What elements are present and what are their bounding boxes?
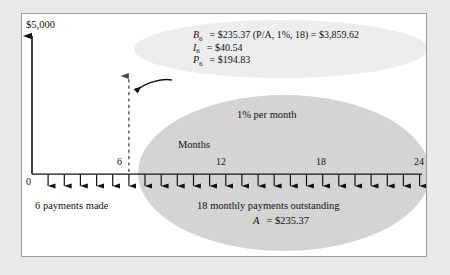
payment-amount-expression: = $235.37: [266, 215, 309, 226]
payments-outstanding-label: 18 monthly payments outstanding: [197, 201, 340, 212]
figure-root: $5,000 0 6 12 18 24 B6= $235.37 (P/A, 1%…: [0, 0, 450, 275]
formula-line-balance: B6= $235.37 (P/A, 1%, 18) = $3,859.62: [193, 29, 359, 42]
months-axis-caption: Months: [178, 140, 210, 151]
tick-label-24: 24: [414, 157, 424, 167]
tick-label-12: 12: [216, 157, 226, 167]
payment-amount-label: A= $235.37: [253, 216, 309, 227]
formula-subscript-B: 6: [199, 35, 203, 43]
formula-expression-B: = $235.37 (P/A, 1%, 18) = $3,859.62: [210, 29, 359, 40]
tick-label-18: 18: [316, 157, 326, 167]
present-value-label: $5,000: [26, 20, 55, 31]
formula-subscript-I: 6: [196, 47, 200, 55]
payments-made-label: 6 payments made: [35, 201, 108, 212]
tick-label-0: 0: [26, 177, 31, 187]
balance-formula-block: B6= $235.37 (P/A, 1%, 18) = $3,859.62 I6…: [193, 29, 359, 67]
formula-subscript-P: 6: [199, 60, 203, 68]
formula-line-principal: P6= $194.83: [193, 54, 359, 67]
callout-curved-arrow: [136, 79, 172, 91]
formula-expression-I: = $40.54: [207, 42, 243, 53]
tick-label-6: 6: [117, 157, 122, 167]
payment-symbol-A: A: [253, 215, 259, 226]
formula-expression-P: = $194.83: [210, 54, 251, 65]
interest-rate-label: 1% per month: [237, 110, 297, 121]
formula-line-interest: I6= $40.54: [193, 42, 359, 55]
